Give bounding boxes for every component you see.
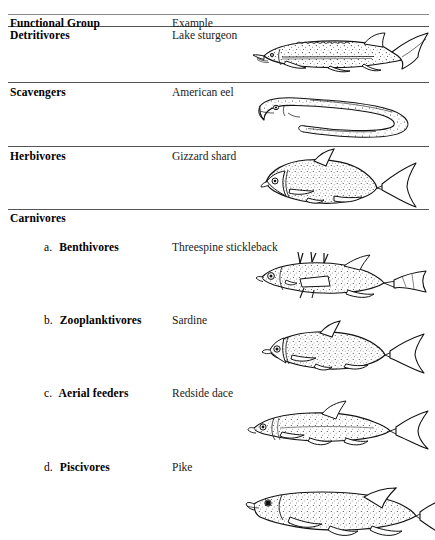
column-header-functional-group: Functional Group — [10, 17, 100, 29]
row-label-herbivores: Herbivores — [10, 150, 66, 162]
shad-illustration — [258, 152, 430, 208]
row-name-benthivores: Benthivores — [59, 241, 119, 253]
row-example-piscivores: Pike — [172, 461, 192, 473]
eel-illustration — [256, 92, 432, 144]
row-example-detritivores: Lake sturgeon — [172, 29, 237, 41]
row-letter-d: d. — [44, 461, 53, 473]
row-letter-b: b. — [44, 314, 53, 326]
row-label-detritivores: Detritivores — [10, 29, 70, 41]
row-example-scavengers: American eel — [172, 86, 234, 98]
row-example-zooplanktivores: Sardine — [172, 314, 207, 326]
dace-illustration — [248, 400, 430, 450]
rule-above-carnivores — [8, 209, 429, 210]
row-label-piscivores: d. Piscivores — [44, 461, 110, 473]
row-label-benthivores: a. Benthivores — [44, 241, 119, 253]
column-header-example: Example — [172, 17, 213, 29]
row-example-aerial-feeders: Redside dace — [172, 387, 233, 399]
row-name-piscivores: Piscivores — [60, 461, 110, 473]
rule-table-top — [8, 14, 429, 15]
pike-illustration — [246, 486, 432, 540]
row-letter-c: c. — [44, 387, 52, 399]
row-letter-a: a. — [44, 241, 52, 253]
row-name-zooplanktivores: Zooplanktivores — [60, 314, 142, 326]
row-name-aerial-feeders: Aerial feeders — [59, 387, 129, 399]
rule-above-herbivores — [8, 146, 429, 147]
sturgeon-illustration — [252, 30, 432, 78]
rule-above-scavengers — [8, 82, 429, 83]
stickleback-illustration — [256, 252, 432, 304]
row-label-aerial-feeders: c. Aerial feeders — [44, 387, 129, 399]
sardine-illustration — [262, 322, 432, 376]
row-example-herbivores: Gizzard shard — [172, 150, 236, 162]
row-label-zooplanktivores: b. Zooplanktivores — [44, 314, 142, 326]
cropped-text-artifact — [150, 2, 230, 7]
row-label-carnivores: Carnivores — [10, 212, 66, 224]
row-label-scavengers: Scavengers — [10, 86, 66, 98]
